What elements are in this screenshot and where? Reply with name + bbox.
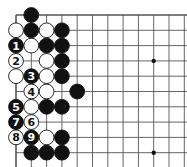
black-stone (55, 130, 70, 145)
black-stone (55, 145, 70, 160)
go-board: 123457689 (0, 0, 187, 167)
move-number: 2 (12, 55, 20, 68)
move-number: 3 (27, 70, 35, 83)
white-stone (9, 23, 24, 38)
move-number: 9 (27, 131, 35, 144)
move-number: 4 (27, 86, 35, 99)
white-stone (39, 130, 54, 145)
white-stone (9, 69, 24, 84)
star-point (152, 59, 156, 63)
white-stone (39, 54, 54, 69)
black-stone (55, 23, 70, 38)
black-stone (70, 84, 85, 99)
black-stone (55, 69, 70, 84)
black-stone (24, 145, 39, 160)
move-number: 5 (12, 101, 20, 114)
black-stone (55, 99, 70, 114)
star-point (152, 151, 156, 155)
white-stone (39, 69, 54, 84)
black-stone (55, 54, 70, 69)
black-stone (24, 8, 39, 23)
move-number: 1 (12, 40, 20, 53)
black-stone (39, 99, 54, 114)
black-stone (39, 145, 54, 160)
white-stone (39, 84, 54, 99)
move-number: 6 (27, 116, 35, 129)
move-number: 7 (12, 116, 20, 129)
white-stone (24, 99, 39, 114)
white-stone (24, 38, 39, 53)
black-stone (55, 38, 70, 53)
white-stone (39, 23, 54, 38)
move-number: 8 (12, 131, 20, 144)
black-stone (39, 38, 54, 53)
black-stone (24, 23, 39, 38)
